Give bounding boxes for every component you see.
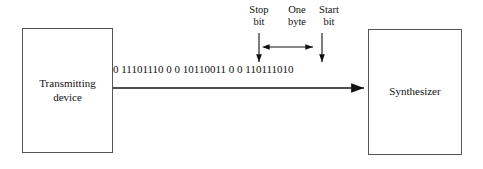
- transmitting-device-label: Transmitting device: [39, 77, 95, 105]
- transmitting-device-box: Transmitting device: [22, 28, 113, 153]
- start-bit-label: Start bit: [308, 4, 350, 29]
- synthesizer-label: Synthesizer: [389, 85, 440, 99]
- stop-bit-label: Stop bit: [238, 4, 280, 29]
- diagram-canvas: Transmitting device Synthesizer 0 111011…: [0, 0, 483, 169]
- synthesizer-box: Synthesizer: [368, 29, 462, 155]
- bit-stream-text: 0 11101110 0 0 10110011 0 0 110111010: [113, 63, 335, 75]
